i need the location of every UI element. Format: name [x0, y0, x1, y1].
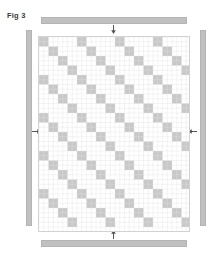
- arrow-down-icon: [110, 25, 117, 34]
- registration-bar-top: [41, 17, 187, 24]
- registration-bar-right: [200, 30, 206, 226]
- fractal-quilt-pattern: [39, 37, 190, 232]
- figure-root: Fig 3: [0, 0, 212, 259]
- figure-label: Fig 3: [7, 11, 26, 20]
- registration-bar-bottom: [41, 240, 187, 247]
- pattern-panel: [38, 36, 190, 232]
